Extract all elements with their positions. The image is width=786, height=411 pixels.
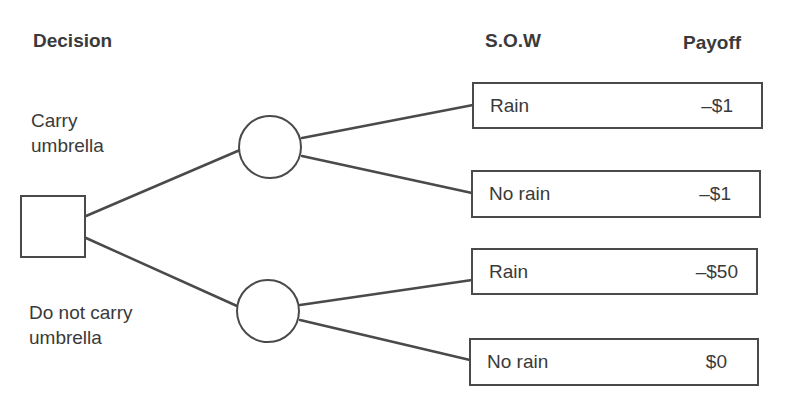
edge-carry-umbrella — [86, 150, 240, 216]
outcome-nocarry-no-rain: No rain $0 — [469, 338, 759, 386]
outcome-carry-rain: Rain –$1 — [472, 82, 763, 129]
sow-label: Rain — [490, 95, 529, 117]
outcome-carry-no-rain: No rain –$1 — [471, 170, 761, 218]
sow-label: Rain — [489, 261, 528, 283]
payoff-value: –$50 — [696, 261, 738, 283]
edge-carry-no-rain — [302, 156, 472, 193]
edge-nocarry-rain — [300, 280, 472, 305]
payoff-value: $0 — [706, 351, 727, 373]
branch-label-do-not-carry-line1: Do not carry — [29, 300, 132, 325]
edge-do-not-carry — [86, 238, 237, 306]
edge-nocarry-no-rain — [300, 320, 470, 360]
sow-header: S.O.W — [485, 30, 541, 52]
branch-label-do-not-carry: Do not carry umbrella — [29, 300, 132, 350]
payoff-value: –$1 — [699, 183, 731, 205]
decision-tree-diagram: Decision S.O.W Payoff Carry umbrella Do … — [0, 0, 786, 411]
branch-label-carry: Carry umbrella — [31, 108, 104, 158]
chance-node-do-not-carry — [236, 279, 300, 343]
decision-node-square — [20, 195, 86, 258]
outcome-nocarry-rain: Rain –$50 — [471, 248, 758, 295]
payoff-value: –$1 — [701, 95, 733, 117]
decision-header: Decision — [33, 30, 112, 52]
payoff-header: Payoff — [683, 32, 741, 54]
branch-label-do-not-carry-line2: umbrella — [29, 325, 132, 350]
chance-node-carry — [238, 115, 302, 179]
branch-label-carry-line1: Carry — [31, 108, 104, 133]
sow-label: No rain — [487, 351, 548, 373]
branch-label-carry-line2: umbrella — [31, 133, 104, 158]
sow-label: No rain — [489, 183, 550, 205]
edge-carry-rain — [302, 105, 473, 138]
